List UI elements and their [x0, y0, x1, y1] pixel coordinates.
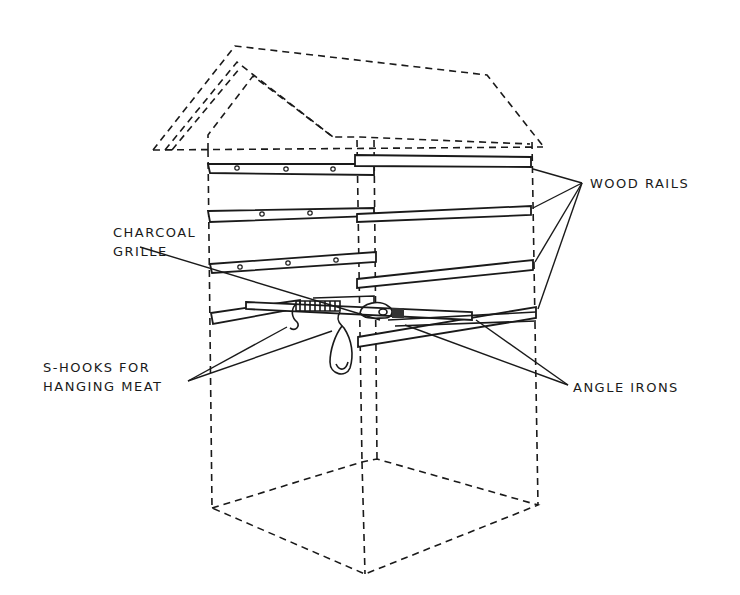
hanging-meat [330, 326, 352, 374]
wood-rails-left [208, 164, 376, 324]
label-wood-rails: WOOD RAILS [590, 174, 689, 193]
diagram-drawing [0, 0, 740, 595]
label-angle-irons: ANGLE IRONS [573, 378, 679, 397]
smokehouse-diagram: WOOD RAILS CHARCOAL GRILLE S-HOOKS FOR H… [0, 0, 740, 595]
label-s-hooks-1: S-HOOKS FOR [43, 358, 150, 377]
label-charcoal-grille-2: GRILLE [113, 242, 168, 261]
leader-wood-rails [533, 169, 582, 309]
label-charcoal-grille-1: CHARCOAL [113, 223, 196, 242]
label-s-hooks-2: HANGING MEAT [43, 377, 163, 396]
roof [153, 46, 543, 150]
